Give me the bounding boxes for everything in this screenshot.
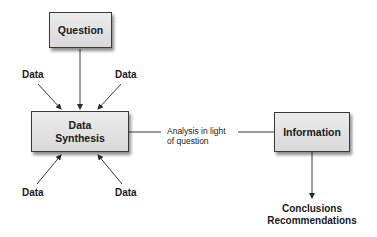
data-label-bottom-left: Data [22, 187, 44, 198]
output-conclusions: Conclusions [262, 203, 362, 215]
edge-label-line1: Analysis in light [167, 126, 226, 136]
data-label-top-right: Data [115, 69, 137, 80]
outputs-label: Conclusions Recommendations [262, 203, 362, 227]
question-box: Question [49, 12, 112, 48]
arrow-data-top-left [38, 84, 61, 109]
arrow-data-bottom-right [98, 155, 122, 184]
edge-label-line2: of question [167, 136, 226, 146]
arrow-data-bottom-left [37, 155, 61, 184]
output-recommendations: Recommendations [262, 215, 362, 227]
data-label-bottom-right: Data [115, 187, 137, 198]
synthesis-label-line2: Synthesis [55, 132, 105, 145]
data-synthesis-box: Data Synthesis [31, 111, 129, 152]
synthesis-label-line1: Data [69, 119, 92, 132]
information-box: Information [274, 112, 350, 152]
edge-label: Analysis in light of question [167, 126, 226, 146]
arrow-data-top-right [98, 84, 121, 109]
data-label-top-left: Data [22, 69, 44, 80]
question-label: Question [58, 24, 104, 37]
information-label: Information [283, 126, 341, 139]
